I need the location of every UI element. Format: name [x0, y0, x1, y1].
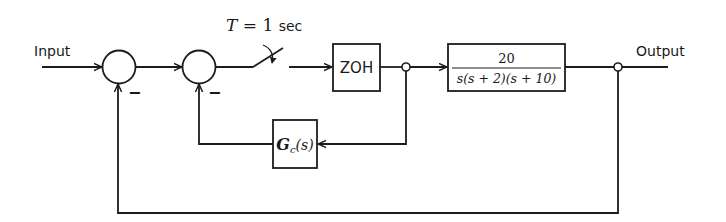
compensator-label: Gc(s) [276, 135, 313, 155]
sampler-switch-icon [253, 45, 283, 67]
pickoff-point-zoh [402, 63, 410, 71]
sum2-minus-sign: − [208, 83, 221, 102]
plant-denominator: s(s + 2)(s + 10) [457, 71, 557, 86]
plant-numerator: 20 [498, 51, 515, 66]
outer-feedback-path [118, 71, 618, 213]
input-label: Input [34, 43, 71, 59]
pickoff-point-output [614, 63, 622, 71]
sampler-period-label: T = 1 sec [226, 15, 302, 35]
zoh-label: ZOH [340, 59, 373, 77]
block-diagram: Input − − T = 1 sec ZOH 20 s(s + 2)(s + … [0, 0, 726, 222]
output-label: Output [636, 43, 685, 59]
sum1-minus-sign: − [128, 83, 141, 102]
summing-junction-outer [103, 51, 136, 84]
summing-junction-inner [183, 51, 216, 84]
